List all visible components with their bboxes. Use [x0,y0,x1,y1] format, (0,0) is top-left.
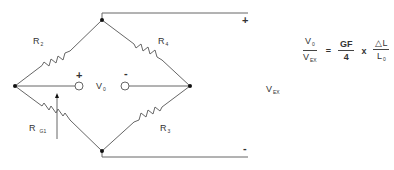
label-symbol: V [96,81,102,91]
excitation-negative-wire [102,151,248,157]
fraction-denominator: L0 [375,50,388,64]
node-right [188,84,192,88]
excitation-positive-wire [102,13,248,20]
resistor-top-right [102,20,190,86]
resistor-gauge-bottom-left [15,86,102,151]
label-symbol: R [33,36,40,46]
label-symbol: V [266,84,272,94]
label-subscript: EX [273,89,280,95]
bridge-circuit [0,0,394,170]
gauge-formula: V0 VEX = GF 4 x △L L0 [298,36,392,65]
fraction-denominator: VEX [301,51,319,65]
label-subscript: 2 [41,41,44,47]
output-negative-terminal [121,82,129,90]
fraction-gf-4: GF 4 [338,39,355,62]
resistor-bottom-right [102,86,190,151]
fraction-numerator: GF [338,39,355,51]
label-symbol: R [158,36,165,46]
fraction-dl-l0: △L L0 [373,38,389,64]
resistor-top-left [15,20,102,86]
label-r-top-right: R4 [158,36,168,47]
label-subscript: 4 [166,41,169,47]
fraction-denominator: 4 [342,51,351,62]
label-vex: VEX [266,84,280,95]
label-subscript: 0 [103,86,106,92]
node-left [13,84,17,88]
excitation-plus-sign: + [242,14,248,26]
node-bottom [100,149,104,153]
label-symbol: R [29,123,36,133]
times-sign: x [361,46,366,56]
formula-term: V [305,36,311,46]
label-v0: V0 [96,81,106,92]
fraction-numerator: △L [373,38,389,50]
fraction-numerator: V0 [303,36,317,51]
label-subscript: G1 [40,128,47,134]
label-r-top-left: R2 [33,36,43,47]
node-top [100,18,104,22]
formula-subscript: 0 [312,41,315,47]
formula-term: V [303,52,309,62]
output-plus-sign: + [76,69,82,81]
output-minus-sign: - [124,67,128,79]
equals-sign: = [326,46,331,56]
label-symbol: R [160,123,167,133]
formula-term: L [377,51,382,61]
label-r-gauge: RG1 [29,123,46,134]
fraction-vo-vex: V0 VEX [301,36,319,65]
formula-subscript: EX [310,57,317,63]
output-positive-terminal [75,82,83,90]
formula-subscript: 0 [383,56,386,62]
excitation-minus-sign: - [243,142,247,154]
label-subscript: 3 [168,128,171,134]
gauge-arrow-head [55,93,59,98]
label-r-bottom-right: R3 [160,123,170,134]
